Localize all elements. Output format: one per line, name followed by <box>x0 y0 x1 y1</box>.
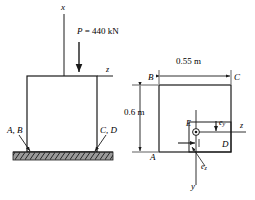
ground-hatch-band <box>13 152 113 160</box>
ecc-y-label: ey <box>219 119 225 127</box>
ecc-z-label: ez <box>201 163 207 171</box>
column-elevation-rect <box>27 76 97 152</box>
point-E-dot <box>195 131 198 134</box>
engineering-diagram <box>0 0 255 200</box>
point-E-label: E <box>186 120 191 128</box>
section-z-axis-label: z <box>240 122 243 130</box>
section-corner-label-C: C <box>234 73 240 82</box>
support-label-AB: A, B <box>7 126 23 135</box>
section-corner-label-A: A <box>150 153 156 162</box>
section-corner-label-B: B <box>148 73 154 82</box>
support-label-CD: C, D <box>100 126 117 135</box>
elevation-z-axis-label: z <box>106 66 109 74</box>
dim-width-label: 0.55 m <box>176 57 201 66</box>
dim-height-label: 0.6 m <box>124 108 145 117</box>
elevation-x-axis-label: x <box>61 3 65 12</box>
leader-support-left <box>19 135 30 151</box>
section-corner-label-D: D <box>222 140 229 149</box>
load-label-P: P = 440 kN <box>77 27 119 36</box>
figure-canvas: x P = 440 kN z A, B C, D 0.55 m 0.6 m B … <box>0 0 255 200</box>
section-y-axis-label: y <box>191 182 195 191</box>
